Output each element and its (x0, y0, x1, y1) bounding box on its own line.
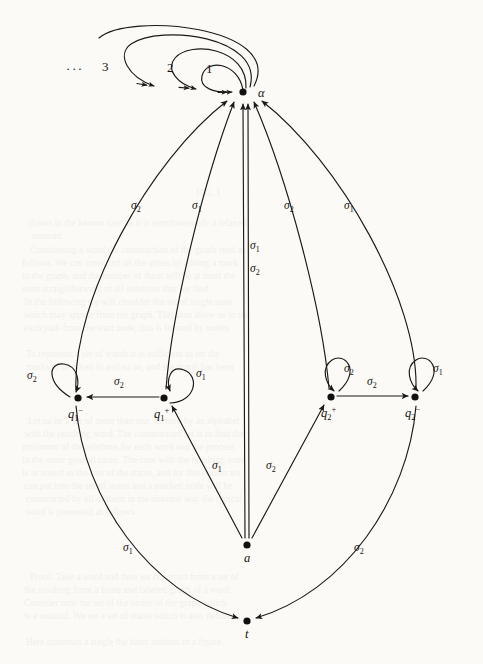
self-loop-q2minus[interactable] (409, 358, 434, 391)
edge-label-e-q2minus-self: σ1 (433, 362, 443, 377)
alpha-loop-3-extra-chevron (137, 84, 147, 86)
edge-label-e-q1plus-alpha: σ1 (192, 199, 202, 214)
transition-graph: αq1−q1+q2+q2−at σ2σ1σ2σ1σ2σ2σ2σ1σ2σ1σ1σ2… (0, 0, 483, 664)
self-loop-q1minus[interactable] (52, 364, 78, 397)
edge-label-e-a-q2plus: σ2 (266, 459, 276, 474)
edge-q1plus-to-alpha[interactable] (166, 102, 234, 389)
edge-a-to-alpha-sigma2[interactable] (248, 104, 249, 538)
edge-label-e-q2plus-alpha: σ2 (284, 199, 294, 214)
figure-container: FIG. 1chains in the known case as it is … (0, 0, 483, 664)
edge-q1minus-to-alpha[interactable] (76, 101, 227, 390)
node-label-q2plus: q2+ (321, 404, 337, 422)
edge-label-e-q2minus-alpha: σ1 (344, 199, 354, 214)
alpha-self-loop-3[interactable] (124, 35, 251, 87)
edge-label-e-q1plus-self: σ1 (196, 367, 206, 382)
node-dot-a[interactable] (243, 541, 250, 548)
edge-a-to-alpha-sigma1[interactable] (243, 104, 245, 538)
node-dot-q2minus[interactable] (411, 393, 418, 400)
edge-label-e-q1minus-self: σ2 (27, 369, 37, 384)
alpha-loop-2-extra-chevron (179, 87, 189, 88)
node-dot-q1plus[interactable] (160, 394, 167, 401)
node-dot-q1minus[interactable] (74, 394, 81, 401)
loop-index-alpha-loop-2: 2 (167, 60, 174, 75)
loop-index-alpha-loop-1: 1 (206, 61, 213, 76)
node-label-q2minus: q2− (405, 404, 421, 422)
node-label-a: a (244, 551, 250, 565)
edge-label-group: σ2σ1σ2σ1σ2σ2σ2σ1σ2σ1σ1σ2σ1σ2σ1σ2 (27, 199, 443, 556)
node-label-alpha: α (258, 86, 265, 100)
edge-label-e-q1plus-q1minus: σ2 (114, 375, 124, 390)
edge-q2plus-to-alpha[interactable] (254, 102, 329, 388)
edge-label-e-a-alpha-s2: σ2 (250, 262, 260, 277)
alpha-self-loop-group (99, 26, 258, 93)
edge-label-e-q2plus-q2minus: σ2 (367, 375, 377, 390)
loop-index-alpha-loop-3: 3 (102, 59, 109, 74)
self-loop-q1plus[interactable] (169, 369, 194, 403)
edge-a-to-q2plus[interactable] (252, 405, 324, 538)
edge-label-e-q2plus-self: σ2 (344, 362, 354, 377)
node-label-q1plus: q1+ (154, 405, 170, 423)
node-label-t: t (245, 627, 249, 641)
edge-q1minus-to-t[interactable] (76, 406, 238, 618)
loop-index-alpha-loop-more: ··· (66, 61, 84, 76)
edge-q2minus-to-t[interactable] (256, 406, 416, 618)
edge-q2minus-to-alpha[interactable] (262, 101, 416, 388)
node-dot-alpha[interactable] (239, 88, 246, 95)
loop-index-label-group: 123··· (66, 59, 213, 76)
edge-label-e-q1minus-alpha: σ2 (131, 199, 141, 214)
edge-label-e-a-q1plus: σ1 (212, 459, 222, 474)
edge-a-to-q1plus[interactable] (172, 406, 242, 538)
node-dot-t[interactable] (243, 617, 250, 624)
edge-label-e-a-alpha-s1: σ1 (250, 239, 260, 254)
node-dot-q2plus[interactable] (327, 393, 334, 400)
